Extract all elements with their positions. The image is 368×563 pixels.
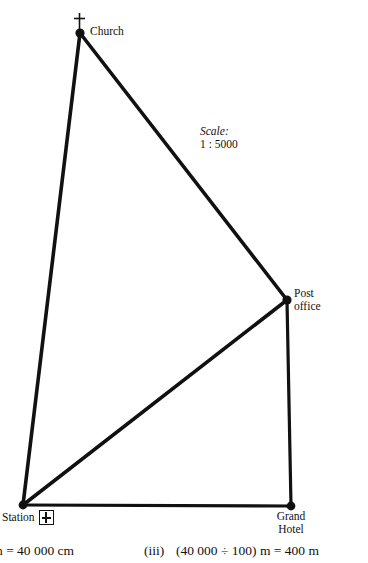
cross-icon <box>74 13 85 29</box>
map-diagram <box>0 0 368 535</box>
point-label-station-text: Station <box>2 511 35 524</box>
bottom-right-expression: (iii) (40 000 ÷ 100) m = 400 m <box>144 538 319 563</box>
edge-station-grand-hotel <box>23 505 291 506</box>
point-label-grand-hotel: Grand Hotel <box>265 510 317 535</box>
bottom-text-row: n = 40 000 cm (iii) (40 000 ÷ 100) m = 4… <box>0 538 368 563</box>
edge-post-office-station <box>23 300 287 505</box>
point-marker-station <box>19 501 28 510</box>
scale-annotation: Scale: 1 : 5000 <box>200 125 238 151</box>
point-label-post-office: Post office <box>294 287 321 312</box>
point-label-grand-hotel-line2: Hotel <box>265 523 317 536</box>
scale-ratio: 1 : 5000 <box>200 138 238 151</box>
point-label-post-office-line2: office <box>294 300 321 313</box>
point-marker-church <box>75 28 84 37</box>
point-label-post-office-line1: Post <box>294 287 321 300</box>
point-label-station: Station <box>2 510 54 525</box>
point-label-grand-hotel-line1: Grand <box>265 510 317 523</box>
edge-church-station <box>23 33 80 505</box>
point-marker-post-office <box>282 295 291 304</box>
bottom-left-expression: n = 40 000 cm <box>0 538 74 563</box>
bottom-right-equation: (40 000 ÷ 100) m = 400 m <box>176 543 319 558</box>
edge-church-post-office <box>80 33 287 300</box>
edge-post-office-grand-hotel <box>287 300 291 506</box>
scale-caption: Scale: <box>200 125 238 138</box>
railway-station-icon <box>39 510 54 525</box>
point-label-church: Church <box>90 25 124 38</box>
bottom-right-item-label: (iii) <box>144 543 164 558</box>
scale-drawing-figure: Church Post office Grand Hotel Station S… <box>0 0 368 535</box>
